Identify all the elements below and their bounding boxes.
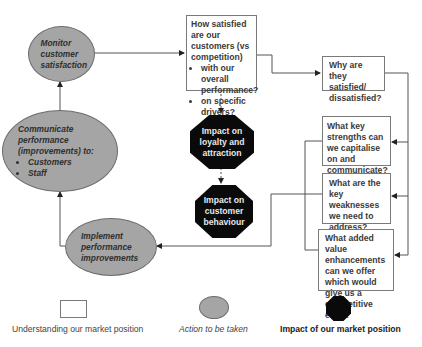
- node-why-text: Why are they satisfied/ dissatisfied?: [329, 60, 382, 103]
- node-impact-loyalty-text: Impact on loyalty and attraction: [198, 126, 246, 159]
- node-why: Why are they satisfied/ dissatisfied?: [322, 56, 385, 91]
- node-how-satisfied-bullet: on specific drivers?: [201, 96, 252, 118]
- node-strengths-text: What key strengths can we capitalise on …: [327, 121, 388, 175]
- node-how-satisfied-title: How satisfied are our customers (vs comp…: [191, 19, 252, 63]
- node-monitor: Monitor customer satisfaction: [28, 26, 95, 82]
- node-weaknesses-text: What are the key weaknesses we need to a…: [329, 178, 381, 232]
- node-how-satisfied-bullet: with our overall performance?: [201, 63, 252, 96]
- legend-ellipse-label: Action to be taken: [179, 324, 248, 334]
- node-implement: Implement performance improvements: [65, 218, 157, 276]
- legend-rectangle-label: Understanding our market position: [12, 324, 143, 334]
- node-how-satisfied: How satisfied are our customers (vs comp…: [186, 15, 257, 91]
- node-impact-loyalty: Impact on loyalty and attraction: [190, 115, 254, 169]
- node-implement-text: Implement performance improvements: [81, 231, 141, 264]
- node-strengths: What key strengths can we capitalise on …: [322, 116, 391, 166]
- node-added-value: What added value enhancements can we off…: [318, 229, 394, 291]
- legend-octagon-swatch: [326, 296, 351, 321]
- node-monitor-text: Monitor customer satisfaction: [41, 38, 83, 71]
- node-weaknesses: What are the key weaknesses we need to a…: [322, 173, 391, 224]
- legend-octagon-label: Impact of our market position: [280, 324, 401, 334]
- arrow-how-satisfied-to-why: [256, 55, 320, 73]
- node-impact-behaviour-text: Impact on customer behaviour: [200, 195, 248, 228]
- node-communicate-bullet: Customers: [28, 157, 102, 168]
- node-communicate-title: Communicate performance (improvements) t…: [18, 124, 102, 157]
- legend-rectangle-swatch: [60, 300, 87, 318]
- node-communicate-bullet: Staff: [28, 168, 102, 179]
- legend-ellipse-swatch: [199, 296, 229, 319]
- node-communicate: Communicate performance (improvements) t…: [2, 110, 118, 192]
- arrow-implement-to-communicate: [60, 192, 65, 246]
